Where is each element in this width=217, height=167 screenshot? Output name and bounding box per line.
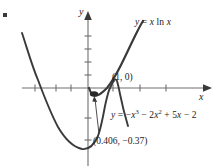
y-axis-label: y — [79, 7, 83, 17]
x-axis-label: x — [199, 92, 203, 102]
point-label-intersection: (1, 0) — [112, 73, 133, 83]
intersection-point-marker — [90, 91, 98, 97]
curve-label-xlnx: y = x ln x — [135, 18, 171, 28]
graph-figure: y x y = x ln x y = −x3 − 2x2 + 5x − 2 (1… — [0, 0, 217, 167]
x-axis-arrowhead — [203, 84, 212, 92]
curve-cubic — [22, 33, 128, 149]
leader-line-minimum — [95, 99, 99, 134]
curve-xlnx — [89, 21, 143, 96]
leader-line-arrowhead — [92, 96, 97, 102]
curve-label-cubic: y = −x3 − 2x2 + 5x − 2 — [111, 111, 197, 121]
point-label-minimum: (0.406, −0.37) — [93, 137, 147, 147]
y-axis-arrowhead — [84, 11, 92, 20]
